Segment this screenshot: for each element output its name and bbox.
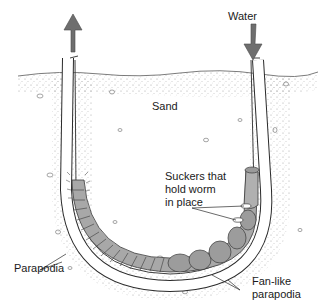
inflow-arrow-icon (244, 24, 262, 60)
suckers-label: Suckers that hold worm in place (165, 170, 226, 209)
fan-parapodia-label: Fan-like parapodia (252, 275, 301, 301)
parapodia-label: Parapodia (14, 262, 64, 275)
sucker-2 (233, 218, 243, 222)
water-label: Water (228, 10, 257, 23)
outflow-arrow-icon (64, 14, 82, 52)
sand-label: Sand (152, 100, 178, 113)
